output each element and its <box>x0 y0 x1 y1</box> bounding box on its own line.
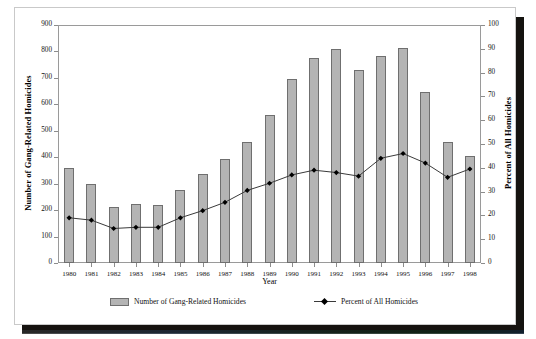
x-axis-tick-label-1981: 1981 <box>79 271 103 278</box>
percent-marker-1985 <box>178 215 183 220</box>
x-axis-tickmark <box>91 263 92 267</box>
y-axis-left-tick-label: 600 <box>26 100 52 107</box>
x-axis-tickmark <box>448 263 449 267</box>
x-axis-tickmark <box>292 263 293 267</box>
percent-marker-1990 <box>289 172 294 177</box>
percent-marker-1996 <box>423 160 428 165</box>
y-axis-left-tick-label: 200 <box>26 206 52 213</box>
x-axis-tick-label-1997: 1997 <box>436 271 460 278</box>
y-axis-right-tickmark <box>481 73 485 74</box>
x-axis-tickmark <box>158 263 159 267</box>
percent-marker-1997 <box>445 175 450 180</box>
legend-bar-label: Number of Gang-Related Homicides <box>134 297 246 306</box>
percent-marker-1986 <box>200 208 205 213</box>
x-axis-tickmark <box>270 263 271 267</box>
x-axis-tickmark <box>114 263 115 267</box>
x-axis-tick-label-1989: 1989 <box>258 271 282 278</box>
percent-marker-1998 <box>467 166 472 171</box>
x-axis-tick-label-1992: 1992 <box>324 271 348 278</box>
percent-line-path <box>69 154 470 229</box>
percent-marker-1980 <box>67 215 72 220</box>
x-axis-tick-label-1994: 1994 <box>369 271 393 278</box>
y-axis-right-tick-label: 90 <box>488 45 514 52</box>
y-axis-left-tick-label: 100 <box>26 233 52 240</box>
percent-marker-1992 <box>334 170 339 175</box>
y-axis-right-tick-label: 100 <box>488 21 514 28</box>
x-axis-tickmark <box>180 263 181 267</box>
y-axis-left-tick-label: 800 <box>26 47 52 54</box>
x-axis-tick-label-1986: 1986 <box>191 271 215 278</box>
y-axis-right-tickmark <box>481 192 485 193</box>
y-axis-right-tickmark <box>481 25 485 26</box>
y-axis-left-tick-label: 400 <box>26 153 52 160</box>
y-axis-right-tick-label: 30 <box>488 188 514 195</box>
y-axis-right-tickmark <box>481 263 485 264</box>
y-axis-right-tickmark <box>481 96 485 97</box>
percent-marker-1991 <box>311 168 316 173</box>
y-axis-right-tick-label: 40 <box>488 164 514 171</box>
y-axis-right-tickmark <box>481 120 485 121</box>
y-axis-left-tick-label: 700 <box>26 74 52 81</box>
y-axis-right-tick-label: 20 <box>488 211 514 218</box>
y-axis-left-tick-label: 300 <box>26 180 52 187</box>
percent-marker-1987 <box>222 200 227 205</box>
y-axis-right-tick-label: 60 <box>488 116 514 123</box>
x-axis-title: Year <box>58 277 481 286</box>
x-axis-tickmark <box>336 263 337 267</box>
x-axis-tick-label-1995: 1995 <box>391 271 415 278</box>
legend-line-marker-icon <box>314 298 336 306</box>
y-axis-right-tick-label: 70 <box>488 92 514 99</box>
percent-marker-1989 <box>267 181 272 186</box>
x-axis-tickmark <box>314 263 315 267</box>
chart-legend: Number of Gang-Related Homicides Percent… <box>58 296 481 312</box>
percent-marker-1988 <box>245 188 250 193</box>
percent-marker-1982 <box>111 226 116 231</box>
x-axis-tick-label-1984: 1984 <box>146 271 170 278</box>
x-axis-tick-label-1982: 1982 <box>102 271 126 278</box>
x-axis-tickmark <box>425 263 426 267</box>
x-axis-tickmark <box>470 263 471 267</box>
legend-item-line: Percent of All Homicides <box>314 297 418 306</box>
x-axis-tick-label-1990: 1990 <box>280 271 304 278</box>
x-axis-tickmark <box>225 263 226 267</box>
x-axis-tickmark <box>136 263 137 267</box>
y-axis-left-tickmark <box>54 263 58 264</box>
percent-marker-1983 <box>133 225 138 230</box>
y-axis-left-tick-label: 0 <box>26 259 52 266</box>
y-axis-right-tickmark <box>481 239 485 240</box>
combo-chart: Number of Gang-Related Homicides Percent… <box>0 0 536 339</box>
y-axis-right-tick-label: 10 <box>488 235 514 242</box>
percent-marker-1984 <box>156 225 161 230</box>
y-axis-left-tick-label: 900 <box>26 21 52 28</box>
chart-page: Number of Gang-Related Homicides Percent… <box>0 0 536 339</box>
y-axis-right-tick-label: 80 <box>488 69 514 76</box>
x-axis-tickmark <box>203 263 204 267</box>
x-axis-tick-label-1993: 1993 <box>347 271 371 278</box>
x-axis-tickmark <box>247 263 248 267</box>
y-axis-right-tick-label: 50 <box>488 140 514 147</box>
y-axis-right-tickmark <box>481 144 485 145</box>
x-axis-tickmark <box>359 263 360 267</box>
y-axis-left-tick-label: 500 <box>26 127 52 134</box>
x-axis-tick-label-1980: 1980 <box>57 271 81 278</box>
x-axis-tickmark <box>69 263 70 267</box>
x-axis-tick-label-1983: 1983 <box>124 271 148 278</box>
x-axis-tick-label-1996: 1996 <box>413 271 437 278</box>
legend-bar-swatch-icon <box>110 298 129 306</box>
percent-marker-1981 <box>89 218 94 223</box>
legend-item-bars: Number of Gang-Related Homicides <box>110 297 246 306</box>
x-axis-tick-label-1985: 1985 <box>168 271 192 278</box>
x-axis-tick-label-1988: 1988 <box>235 271 259 278</box>
x-axis-tickmark <box>381 263 382 267</box>
x-axis-tick-label-1991: 1991 <box>302 271 326 278</box>
y-axis-right-tickmark <box>481 49 485 50</box>
x-axis-tick-label-1987: 1987 <box>213 271 237 278</box>
line-series-layer <box>58 25 481 263</box>
legend-line-label: Percent of All Homicides <box>341 297 418 306</box>
x-axis-tickmark <box>403 263 404 267</box>
y-axis-right-tick-label: 0 <box>488 259 514 266</box>
y-axis-right-tickmark <box>481 215 485 216</box>
x-axis-tick-label-1998: 1998 <box>458 271 482 278</box>
y-axis-right-tickmark <box>481 168 485 169</box>
percent-marker-1995 <box>400 151 405 156</box>
